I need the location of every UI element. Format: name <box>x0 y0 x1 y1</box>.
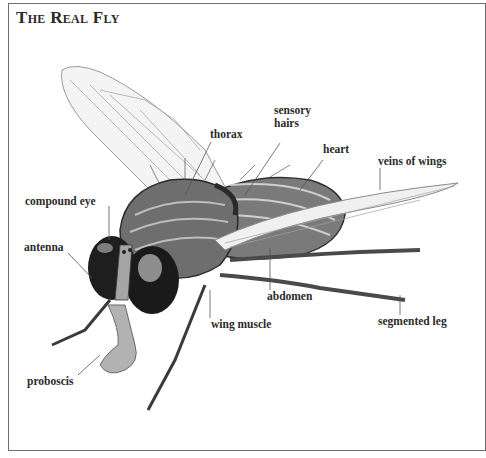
label-antenna: antenna <box>24 241 64 254</box>
label-compound-eye: compound eye <box>25 195 96 208</box>
label-thorax: thorax <box>210 128 243 141</box>
label-proboscis: proboscis <box>27 375 73 388</box>
label-sensory-hairs-line2: hairs <box>274 117 299 130</box>
label-heart: heart <box>323 143 349 156</box>
label-segmented-leg: segmented leg <box>378 315 447 328</box>
segmented-leg-shape <box>220 275 405 300</box>
leg-front-left <box>52 300 110 345</box>
label-veins-of-wings: veins of wings <box>378 155 446 168</box>
label-wing-muscle: wing muscle <box>211 318 271 331</box>
proboscis-shape <box>100 305 136 373</box>
label-sensory-hairs-line1: sensory <box>274 104 311 117</box>
label-abdomen: abdomen <box>267 290 312 303</box>
